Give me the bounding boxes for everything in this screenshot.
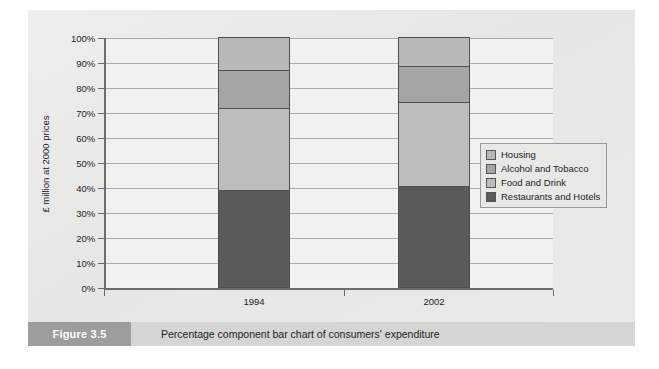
bar-segment[interactable]: [218, 108, 290, 190]
figure-number: Figure 3.5: [53, 328, 107, 340]
bar-segment[interactable]: [398, 102, 470, 187]
bar-segment[interactable]: [218, 37, 290, 71]
chart-legend: HousingAlcohol and TobaccoFood and Drink…: [480, 143, 607, 208]
legend-item[interactable]: Restaurants and Hotels: [486, 190, 600, 203]
gridline: [106, 38, 553, 39]
legend-swatch-icon: [486, 192, 496, 202]
bar-segment[interactable]: [398, 186, 470, 288]
figure-panel: £ million at 2000 prices 0%10%20%30%40%5…: [28, 10, 635, 346]
bar-segment[interactable]: [398, 66, 470, 103]
x-axis-tick: [104, 290, 105, 296]
y-axis-tick-label: 20%: [76, 233, 95, 244]
y-axis-tick-label: 0%: [81, 283, 95, 294]
y-axis-title: £ million at 2000 prices: [39, 38, 53, 290]
gridline: [106, 88, 553, 89]
legend-swatch-icon: [486, 178, 496, 188]
gridline: [106, 213, 553, 214]
legend-label: Housing: [501, 149, 536, 160]
y-axis-tick-label: 90%: [76, 58, 95, 69]
y-axis-tick-label: 60%: [76, 133, 95, 144]
bar-segment[interactable]: [218, 70, 290, 110]
legend-label: Restaurants and Hotels: [501, 191, 600, 202]
legend-label: Food and Drink: [501, 177, 566, 188]
y-axis-tick-label: 100%: [71, 33, 95, 44]
legend-item[interactable]: Alcohol and Tobacco: [486, 162, 600, 175]
y-axis-tick-label: 30%: [76, 208, 95, 219]
bar-2002[interactable]: [398, 38, 470, 288]
gridline: [106, 238, 553, 239]
x-axis-tick: [344, 290, 345, 296]
legend-swatch-icon: [486, 150, 496, 160]
bar-segment[interactable]: [218, 190, 290, 289]
figure-caption-text: Percentage component bar chart of consum…: [161, 322, 440, 346]
x-axis-label-2002: 2002: [423, 296, 444, 307]
legend-swatch-icon: [486, 164, 496, 174]
bar-segment[interactable]: [398, 37, 470, 67]
gridline: [106, 263, 553, 264]
y-axis-tick-label: 40%: [76, 183, 95, 194]
gridline: [106, 63, 553, 64]
legend-item[interactable]: Food and Drink: [486, 176, 600, 189]
bar-1994[interactable]: [218, 38, 290, 288]
x-axis-line: [104, 288, 553, 290]
figure-caption-bar: Figure 3.5 Percentage component bar char…: [28, 322, 635, 346]
y-axis-line: [104, 38, 106, 290]
x-axis-tick: [553, 290, 554, 296]
gridline: [106, 138, 553, 139]
x-axis-label-1994: 1994: [243, 296, 264, 307]
figure-number-box: Figure 3.5: [28, 322, 131, 346]
legend-item[interactable]: Housing: [486, 148, 600, 161]
y-axis-tick-label: 10%: [76, 258, 95, 269]
gridline: [106, 113, 553, 114]
y-axis-tick-label: 80%: [76, 83, 95, 94]
y-axis-tick-label: 70%: [76, 108, 95, 119]
legend-label: Alcohol and Tobacco: [501, 163, 589, 174]
y-axis-tick-label: 50%: [76, 158, 95, 169]
